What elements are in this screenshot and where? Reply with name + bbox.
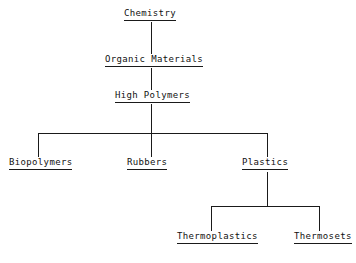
edge-bus-biopolymers [38,133,39,157]
edge-bus-thermoplastics [211,206,212,231]
branch-bus-plastics [211,206,320,207]
edge-bus-rubbers [151,133,152,157]
node-high-polymers: High Polymers [115,90,190,103]
diagram-canvas: Chemistry Organic Materials High Polymer… [0,0,356,263]
node-chemistry: Chemistry [124,8,176,21]
node-plastics: Plastics [242,157,288,170]
node-thermosets: Thermosets [294,231,352,244]
edge-organic-highpolymers [151,68,152,90]
edge-bus-plastics [267,133,268,157]
edge-highpolymers-bus [151,104,152,134]
node-rubbers: Rubbers [127,157,167,170]
node-biopolymers: Biopolymers [9,157,72,170]
edge-bus-thermosets [319,206,320,231]
edge-plastics-bus [267,172,268,207]
node-organic-materials: Organic Materials [105,54,203,67]
node-thermoplastics: Thermoplastics [177,231,258,244]
branch-bus-high-polymers [38,133,267,134]
edge-chemistry-organic [151,22,152,54]
